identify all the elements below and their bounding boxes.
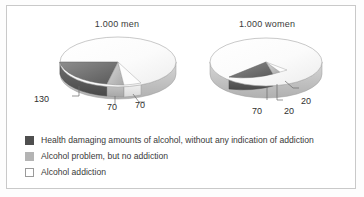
legend-label-health-damaging: Health damaging amounts of alcohol, with…: [41, 135, 314, 146]
pie-women-label-light: 20: [301, 96, 311, 106]
pie-men-label-mid: 70: [107, 102, 117, 112]
pie-women-label-mid: 20: [284, 106, 294, 116]
pie-women-label-dark: 70: [252, 106, 262, 116]
pie-men-label-dark: 130: [34, 94, 49, 104]
chart-title-men: 1.000 men: [65, 19, 169, 29]
legend-label-alcohol-addiction: Alcohol addiction: [41, 167, 106, 178]
legend-swatch-dark-icon: [25, 136, 34, 145]
legend-item-health-damaging: Health damaging amounts of alcohol, with…: [25, 133, 355, 148]
figure-page: 1.000 men: [0, 0, 364, 197]
legend-item-alcohol-problem: Alcohol problem, but no addiction: [25, 149, 355, 164]
legend-swatch-light-icon: [25, 168, 34, 177]
chart-legend: Health damaging amounts of alcohol, with…: [25, 133, 355, 181]
pie-men-label-light: 70: [135, 100, 145, 110]
legend-label-alcohol-problem: Alcohol problem, but no addiction: [41, 151, 168, 162]
figure-frame: 1.000 men: [6, 5, 356, 189]
pie-men-svg: [57, 34, 179, 106]
pie-chart-men: [57, 34, 179, 106]
legend-item-alcohol-addiction: Alcohol addiction: [25, 165, 355, 180]
chart-title-women: 1.000 women: [212, 19, 322, 29]
legend-swatch-mid-icon: [25, 152, 34, 161]
